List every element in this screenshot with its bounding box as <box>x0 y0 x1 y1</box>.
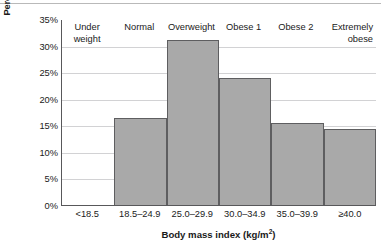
y-axis-tick-label: 0% <box>24 201 58 211</box>
y-axis-tick-label: 30% <box>24 42 58 52</box>
y-axis-tick-label: 10% <box>24 148 58 158</box>
x-axis-title-suffix: ) <box>272 229 275 240</box>
x-axis-tick-label: ≥40.0 <box>324 208 377 222</box>
x-axis-tick-label: 18.5–24.9 <box>114 208 167 222</box>
y-axis-tick-label: 35% <box>24 15 58 25</box>
x-axis-tick-label: <18.5 <box>61 208 114 222</box>
x-axis-tick-labels: <18.518.5–24.925.0–29.930.0–34.935.0–39.… <box>61 208 376 222</box>
x-axis-tick-label: 35.0–39.9 <box>271 208 324 222</box>
category-name-label: Overweight <box>165 22 217 52</box>
x-axis-title-base: Body mass index (kg/m <box>161 229 268 240</box>
category-name-labels: UnderweightNormalOverweightObese 1Obese … <box>61 22 376 52</box>
category-name-label: Underweight <box>61 22 113 52</box>
y-axis-tick-label: 25% <box>24 68 58 78</box>
y-axis-title: Percentage of population <box>0 0 14 46</box>
x-axis-tick-label: 30.0–34.9 <box>219 208 272 222</box>
bmi-population-bar-chart: Percentage of population 0%5%10%15%20%25… <box>0 0 381 247</box>
y-axis-tick-label: 20% <box>24 95 58 105</box>
category-name-label: Extremelyobese <box>322 22 376 52</box>
bar[interactable] <box>271 123 323 205</box>
x-axis-tick-label: 25.0–29.9 <box>166 208 219 222</box>
bar[interactable] <box>324 129 376 205</box>
category-name-label: Obese 2 <box>270 22 322 52</box>
category-name-label: Obese 1 <box>218 22 270 52</box>
bar[interactable] <box>219 78 271 205</box>
bar[interactable] <box>114 118 166 205</box>
x-axis-title: Body mass index (kg/m2) <box>61 226 376 241</box>
y-axis-tick-labels: 0%5%10%15%20%25%30%35% <box>20 0 58 247</box>
bar[interactable] <box>167 40 219 205</box>
y-axis-tick-label: 15% <box>24 121 58 131</box>
category-name-label: Normal <box>113 22 165 52</box>
y-axis-tick-label: 5% <box>24 174 58 184</box>
